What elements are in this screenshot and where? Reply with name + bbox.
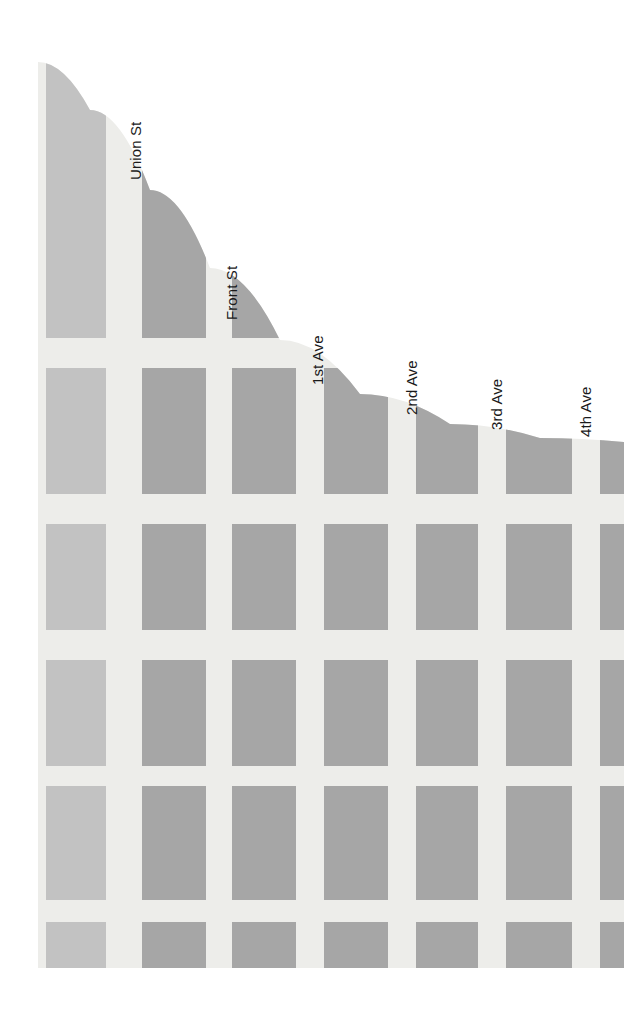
city-block [232, 368, 296, 494]
city-block [46, 660, 106, 766]
street-label-front-st[interactable]: Front St [224, 266, 239, 320]
city-block [232, 62, 296, 338]
city-block [324, 524, 388, 630]
city-block [46, 368, 106, 494]
city-block [506, 922, 572, 968]
city-block [142, 62, 206, 338]
city-block [506, 524, 572, 630]
city-block [142, 524, 206, 630]
city-block [142, 786, 206, 900]
city-block [46, 922, 106, 968]
city-block [600, 524, 624, 630]
city-block [506, 660, 572, 766]
city-block [506, 368, 572, 494]
city-block [46, 62, 106, 338]
city-block [600, 786, 624, 900]
city-block [142, 660, 206, 766]
city-block [600, 62, 624, 338]
city-block [416, 660, 478, 766]
city-block [46, 786, 106, 900]
city-block [324, 786, 388, 900]
city-block [324, 660, 388, 766]
city-block [232, 786, 296, 900]
city-block [416, 524, 478, 630]
city-block [416, 786, 478, 900]
city-block [416, 922, 478, 968]
city-block [324, 922, 388, 968]
street-label-2nd-ave[interactable]: 2nd Ave [404, 360, 419, 415]
city-block [600, 922, 624, 968]
map-canvas[interactable]: Union StFront St1st Ave2nd Ave3rd Ave4th… [0, 0, 624, 1023]
city-block [600, 368, 624, 494]
city-block [232, 660, 296, 766]
city-block [600, 660, 624, 766]
city-block [324, 368, 388, 494]
street-label-4th-ave[interactable]: 4th Ave [578, 387, 593, 437]
city-block [232, 524, 296, 630]
city-block [232, 922, 296, 968]
map-graphics [0, 0, 624, 1023]
street-label-3rd-ave[interactable]: 3rd Ave [489, 379, 504, 430]
city-block [46, 524, 106, 630]
city-block [506, 786, 572, 900]
city-block [416, 368, 478, 494]
street-label-union-st[interactable]: Union St [128, 122, 143, 180]
city-block [506, 62, 572, 338]
city-block [142, 368, 206, 494]
city-block [142, 922, 206, 968]
city-block [416, 62, 478, 338]
street-label-1st-ave[interactable]: 1st Ave [310, 335, 325, 385]
city-block [324, 62, 388, 338]
